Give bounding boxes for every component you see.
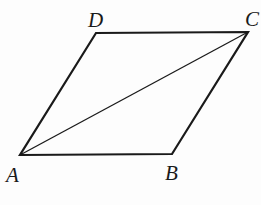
diagram-svg: A B C D — [0, 0, 261, 205]
parallelogram-diagram: A B C D — [0, 0, 261, 205]
vertex-label-d: D — [87, 8, 103, 32]
vertex-label-b: B — [165, 161, 178, 185]
vertex-label-a: A — [4, 163, 19, 187]
vertex-label-c: C — [245, 7, 260, 31]
diagonal-ac — [20, 32, 248, 155]
